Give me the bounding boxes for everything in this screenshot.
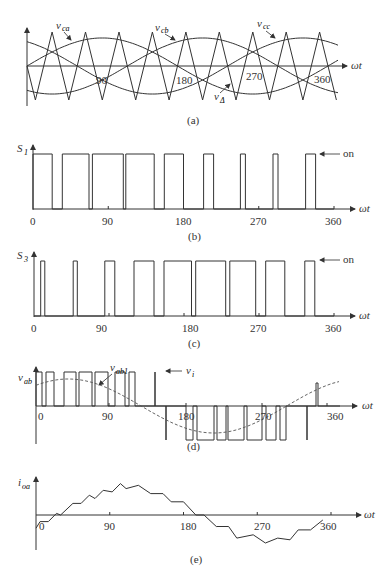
arrow-icon <box>64 32 71 40</box>
ioa-current-waveform <box>36 484 323 543</box>
svg-text:ab: ab <box>24 377 32 386</box>
svg-text:90: 90 <box>102 410 114 422</box>
tick-360: 360 <box>314 73 331 85</box>
tick-180: 180 <box>176 74 193 86</box>
panel-b-y-label: S <box>17 142 23 154</box>
svg-text:v: v <box>155 21 160 33</box>
svg-text:360: 360 <box>325 322 342 334</box>
svg-text:180: 180 <box>175 215 192 227</box>
panel-d: v ab v ab1 v i ωt 0 90 180 270 360 (d) <box>18 361 374 453</box>
tick-90: 90 <box>96 74 108 86</box>
svg-text:ωt: ωt <box>359 202 371 214</box>
caption-b: (b) <box>188 230 201 243</box>
arrow-icon <box>266 31 275 38</box>
svg-text:v: v <box>56 19 61 31</box>
svg-text:Δ: Δ <box>219 96 225 105</box>
svg-text:ωt: ωt <box>359 309 371 321</box>
svg-text:360: 360 <box>325 215 342 227</box>
svg-text:90: 90 <box>96 322 108 334</box>
svg-text:0: 0 <box>39 520 45 532</box>
panel-c: S 3 on ωt 0 90 180 270 360 (c) <box>17 249 371 350</box>
svg-text:1: 1 <box>24 148 28 157</box>
svg-text:270: 270 <box>250 322 267 334</box>
svg-text:360: 360 <box>327 410 344 422</box>
svg-text:3: 3 <box>23 255 28 264</box>
label-vcc: v cc <box>257 17 275 38</box>
arrow-icon <box>99 374 112 385</box>
svg-text:oa: oa <box>22 482 30 491</box>
panel-e-y-label: i <box>18 476 21 488</box>
panel-a: ωt 90 180 270 360 v ca v cb v cc v Δ (a) <box>27 17 363 127</box>
svg-text:ca: ca <box>62 24 70 33</box>
svg-text:0: 0 <box>31 322 37 334</box>
s3-pulse-train <box>34 261 334 316</box>
label-vcb: v cb <box>155 21 175 40</box>
label-vtri: v Δ <box>214 84 230 105</box>
svg-text:ab1: ab1 <box>116 367 128 376</box>
panel-c-y-label: S <box>17 249 23 261</box>
on-label: on <box>343 253 355 265</box>
tick-270: 270 <box>246 70 263 82</box>
svg-text:ωt: ωt <box>364 508 376 520</box>
svg-text:270: 270 <box>250 215 267 227</box>
svg-text:0: 0 <box>38 410 44 422</box>
s1-pulse-train <box>33 154 334 209</box>
panel-e: i oa ωt 0 90 180 270 360 (e) <box>18 476 376 566</box>
panel-a-x-label: ωt <box>351 59 363 71</box>
caption-a: (a) <box>187 114 200 127</box>
svg-text:0: 0 <box>30 215 36 227</box>
svg-text:180: 180 <box>178 410 195 422</box>
svg-text:180: 180 <box>182 322 199 334</box>
svg-text:360: 360 <box>320 520 337 532</box>
svg-text:cc: cc <box>263 22 271 31</box>
vi-label: v <box>186 364 191 376</box>
label-vca: v ca <box>56 19 71 40</box>
on-label: on <box>343 147 355 159</box>
caption-e: (e) <box>190 553 203 566</box>
svg-text:90: 90 <box>102 215 114 227</box>
svg-text:i: i <box>192 370 194 379</box>
caption-c: (c) <box>188 337 201 350</box>
panel-d-y-label: v <box>18 371 23 383</box>
svg-text:90: 90 <box>104 520 116 532</box>
arrow-icon <box>165 34 175 40</box>
svg-text:270: 270 <box>254 520 271 532</box>
svg-text:180: 180 <box>180 520 197 532</box>
pwm-waveform-figure: ωt 90 180 270 360 v ca v cb v cc v Δ (a) <box>0 0 389 580</box>
svg-text:v: v <box>214 90 219 102</box>
vab1-label: v <box>110 361 115 373</box>
panel-b: S 1 on ωt 0 90 180 270 360 (b) <box>17 142 371 243</box>
svg-text:270: 270 <box>255 410 272 422</box>
caption-d: (d) <box>187 440 200 453</box>
svg-text:v: v <box>257 17 262 29</box>
svg-text:cb: cb <box>161 26 169 35</box>
svg-text:ωt: ωt <box>362 399 374 411</box>
